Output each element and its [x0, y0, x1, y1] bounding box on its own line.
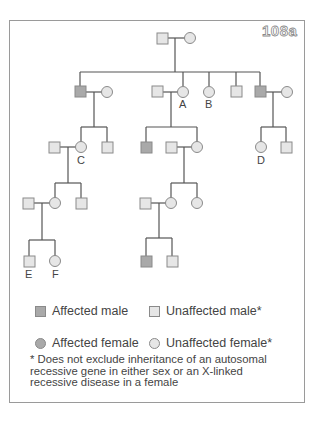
- label-A: A: [179, 98, 186, 110]
- footnote: * Does not exclude inheritance of an aut…: [30, 354, 290, 389]
- unaffected-female-symbol: [166, 198, 177, 209]
- unaffected-female-symbol: [192, 198, 203, 209]
- unaffected-female-symbol-F: [50, 256, 61, 267]
- unaffected-male-symbol: [140, 198, 151, 209]
- legend-unaffected-female: Unaffected female*: [149, 336, 272, 350]
- unaffected-male-symbol: [102, 142, 113, 153]
- unaffected-male-symbol: [76, 198, 87, 209]
- affected-male-symbol: [141, 142, 152, 153]
- pedigree-chart: [0, 0, 322, 300]
- unaffected-female-symbol-B: [204, 87, 215, 98]
- label-D: D: [257, 154, 265, 166]
- legend-affected-male-label: Affected male: [52, 304, 128, 318]
- legend-affected-male: Affected male: [35, 304, 128, 318]
- unaffected-female-symbol-C: [76, 142, 87, 153]
- label-F: F: [52, 268, 59, 280]
- unaffected-female-icon: [149, 338, 160, 349]
- affected-male-icon: [35, 306, 46, 317]
- affected-male-symbol: [141, 256, 152, 267]
- unaffected-female-symbol: [102, 87, 113, 98]
- unaffected-male-symbol: [166, 142, 177, 153]
- legend-affected-female: Affected female: [35, 336, 139, 350]
- affected-male-symbol: [255, 86, 266, 97]
- unaffected-female-symbol: [185, 33, 196, 44]
- unaffected-male-symbol: [157, 33, 168, 44]
- unaffected-male-symbol: [231, 86, 242, 97]
- unaffected-male-symbol: [49, 142, 60, 153]
- affected-male-symbol: [75, 86, 86, 97]
- label-B: B: [205, 98, 212, 110]
- unaffected-male-symbol: [167, 256, 178, 267]
- unaffected-female-symbol: [192, 142, 203, 153]
- legend-unaffected-female-label: Unaffected female*: [166, 336, 272, 350]
- unaffected-male-icon: [149, 306, 160, 317]
- unaffected-female-symbol: [50, 198, 61, 209]
- unaffected-male-symbol: [23, 198, 34, 209]
- legend-affected-female-label: Affected female: [52, 336, 139, 350]
- label-E: E: [25, 268, 32, 280]
- pedigree-lines: [29, 38, 286, 256]
- label-C: C: [77, 154, 85, 166]
- pedigree-symbols: [23, 33, 293, 268]
- legend-unaffected-male: Unaffected male*: [149, 304, 262, 318]
- unaffected-female-symbol-A: [178, 87, 189, 98]
- unaffected-female-symbol: [282, 87, 293, 98]
- affected-female-icon: [35, 338, 46, 349]
- unaffected-female-symbol-D: [256, 142, 267, 153]
- unaffected-male-symbol: [152, 86, 163, 97]
- unaffected-male-symbol: [281, 142, 292, 153]
- unaffected-male-symbol-E: [24, 256, 35, 267]
- legend-unaffected-male-label: Unaffected male*: [166, 304, 262, 318]
